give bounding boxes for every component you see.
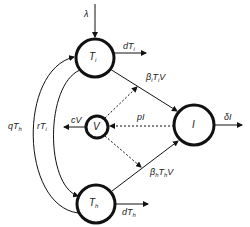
node-V-label: V (93, 122, 100, 132)
deltaI-label: δI (224, 113, 232, 122)
node-I-label: I (192, 120, 195, 130)
infection-ti-label: βiTiV (146, 73, 165, 83)
qTh-label: qTh (8, 122, 22, 132)
V-to-infection-ti-dashed (105, 87, 137, 118)
rTi-label: rTi (37, 122, 47, 132)
infection-th-arrow (112, 141, 178, 191)
compartment-diagram: Ti Th V I λ dTi βiTiV βhThV dTh δI pI cV… (0, 0, 250, 227)
node-Th-label: Th (89, 198, 98, 209)
rTi-curve (53, 70, 80, 196)
node-Ti-label: Ti (89, 52, 96, 63)
cV-label: cV (71, 116, 82, 125)
lambda-label: λ (84, 10, 88, 19)
dTh-label: dTh (122, 208, 136, 218)
infection-ti-arrow (110, 69, 177, 111)
dTi-label: dTi (123, 42, 135, 52)
qTh-curve (33, 57, 78, 213)
infection-th-label: βhThV (150, 168, 173, 178)
diagram-canvas (0, 0, 250, 227)
V-to-infection-th-dashed (105, 136, 141, 167)
pI-label: pI (137, 113, 145, 122)
